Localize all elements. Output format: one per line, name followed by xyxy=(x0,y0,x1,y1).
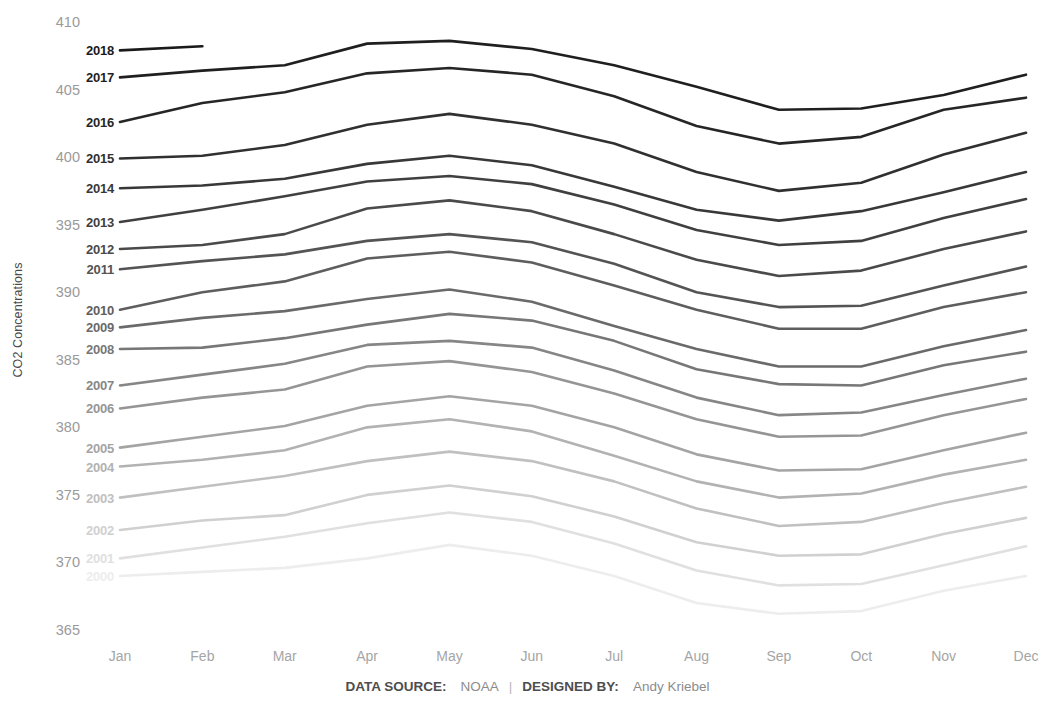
series-label-2018: 2018 xyxy=(86,43,114,58)
series-label-2003: 2003 xyxy=(86,490,114,505)
series-line-2015 xyxy=(120,114,1026,191)
series-line-2014 xyxy=(120,156,1026,221)
designer-label: DESIGNED BY: xyxy=(522,679,619,694)
series-line-2001 xyxy=(120,512,1026,585)
series-label-2017: 2017 xyxy=(86,70,114,85)
designer-value: Andy Kriebel xyxy=(633,679,710,694)
series-label-2002: 2002 xyxy=(86,523,114,538)
series-line-2008 xyxy=(120,314,1026,386)
series-label-2016: 2016 xyxy=(86,114,114,129)
series-label-2015: 2015 xyxy=(86,151,114,166)
series-label-2012: 2012 xyxy=(86,241,114,256)
series-label-2001: 2001 xyxy=(86,551,114,566)
series-label-2013: 2013 xyxy=(86,214,114,229)
data-source-value: NOAA xyxy=(461,679,499,694)
series-line-2017 xyxy=(120,41,1026,110)
series-line-2006 xyxy=(120,361,1026,437)
series-label-2014: 2014 xyxy=(86,181,114,196)
series-label-2004: 2004 xyxy=(86,459,114,474)
series-label-2010: 2010 xyxy=(86,302,114,317)
series-label-2005: 2005 xyxy=(86,440,114,455)
series-label-2009: 2009 xyxy=(86,320,114,335)
chart-footer: DATA SOURCE:NOAA|DESIGNED BY:Andy Kriebe… xyxy=(0,679,1055,694)
series-label-2006: 2006 xyxy=(86,401,114,416)
series-line-2000 xyxy=(120,545,1026,614)
series-line-2018 xyxy=(120,46,202,50)
series-line-2012 xyxy=(120,200,1026,276)
data-source-label: DATA SOURCE: xyxy=(346,679,447,694)
series-line-2011 xyxy=(120,234,1026,307)
series-line-2002 xyxy=(120,485,1026,555)
series-label-2011: 2011 xyxy=(87,262,114,277)
series-line-2016 xyxy=(120,68,1026,144)
co2-seasonal-line-chart: CO2 Concentrations 410405400395390385380… xyxy=(0,0,1055,719)
series-label-2000: 2000 xyxy=(86,568,114,583)
series-label-2008: 2008 xyxy=(86,341,114,356)
plot-area xyxy=(0,0,1055,719)
series-line-2009 xyxy=(120,290,1026,367)
footer-separator: | xyxy=(499,679,523,694)
series-line-2013 xyxy=(120,176,1026,245)
series-label-2007: 2007 xyxy=(86,378,114,393)
